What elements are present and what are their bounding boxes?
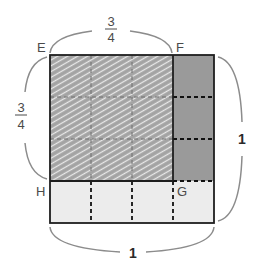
point-h-label: H: [36, 184, 45, 199]
bottom-length-label: 1: [129, 245, 137, 261]
top-numerator: 3: [107, 14, 114, 29]
left-denominator: 4: [17, 117, 24, 132]
top-brace: [50, 31, 92, 53]
right-brace: [218, 57, 242, 122]
point-e-label: E: [37, 40, 46, 55]
point-g-label: G: [177, 184, 187, 199]
bottom-brace: [50, 227, 120, 252]
top-fraction-label: 3 4: [105, 14, 117, 45]
point-f-label: F: [176, 40, 184, 55]
unit-square-diagram: 3 4 3 4 1 1 E F H G: [0, 0, 258, 279]
hatched-region-efgh: [50, 55, 173, 181]
left-brace: [25, 57, 47, 92]
left-fraction-label: 3 4: [15, 100, 27, 132]
left-numerator: 3: [17, 100, 24, 115]
right-column-region: [173, 55, 214, 181]
right-length-label: 1: [238, 131, 246, 147]
top-denominator: 4: [107, 30, 114, 45]
